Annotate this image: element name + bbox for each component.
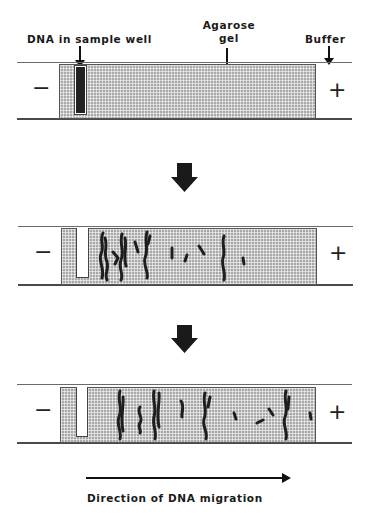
agarose-gel — [59, 64, 316, 119]
step-arrow-down-icon — [171, 325, 198, 353]
label-dna-in-sample-well: DNA in sample well — [27, 33, 152, 45]
positive-electrode: + — [328, 401, 346, 423]
label-buffer: Buffer — [305, 33, 346, 45]
negative-electrode: − — [34, 241, 52, 263]
sample-well-loaded — [75, 66, 86, 114]
buffer-top-line — [18, 226, 353, 227]
positive-electrode: + — [329, 242, 347, 264]
buffer-top-line — [17, 384, 352, 385]
step-arrow-down-icon — [171, 163, 198, 192]
pointer-arrow-buffer — [323, 46, 335, 66]
label-agarose-line1: Agarose — [196, 19, 262, 32]
dna-bands — [61, 228, 317, 285]
label-agarose-line2: gel — [196, 32, 262, 45]
dna-bands — [60, 387, 316, 443]
negative-electrode: − — [34, 399, 52, 421]
positive-electrode: + — [328, 79, 346, 101]
negative-electrode: − — [32, 77, 50, 99]
migration-direction-arrow — [86, 472, 292, 484]
buffer-top-line — [17, 62, 352, 63]
label-agarose-gel: Agarose gel — [196, 19, 262, 45]
label-direction-of-migration: Direction of DNA migration — [87, 492, 263, 504]
